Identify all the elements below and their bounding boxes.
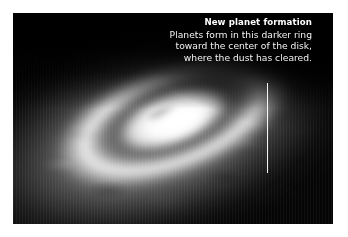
callout-leader-line — [267, 83, 268, 173]
callout-body-line-2: toward the center of the disk, — [152, 40, 312, 51]
callout-body-line-1: Planets form in this darker ring — [152, 29, 312, 40]
callout-title: New planet formation — [152, 17, 312, 28]
protoplanetary-disk-figure: New planet formation Planets form in thi… — [13, 13, 333, 224]
page-canvas: New planet formation Planets form in thi… — [0, 0, 348, 237]
callout-body-line-3: where the dust has cleared. — [152, 52, 312, 63]
callout-annotation: New planet formation Planets form in thi… — [152, 17, 312, 63]
